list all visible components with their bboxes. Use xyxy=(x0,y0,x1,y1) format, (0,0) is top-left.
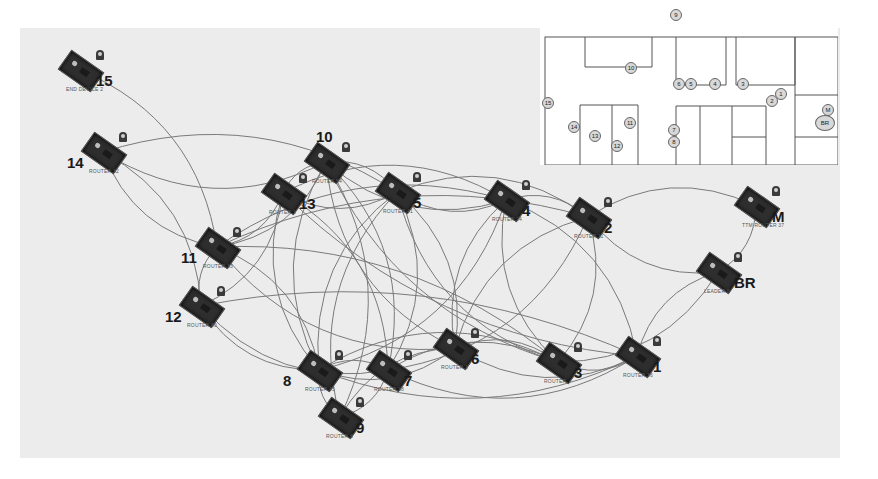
floor-plan-marker: 4 xyxy=(709,78,721,90)
floor-plan-marker: 7 xyxy=(668,124,680,136)
floor-plan-inset: 91065431215MBR1114137128 xyxy=(540,5,838,165)
link-BR-1 xyxy=(637,272,718,356)
floor-plan-marker: 13 xyxy=(589,130,601,142)
node-number-label: 15 xyxy=(96,72,113,89)
link-2-M xyxy=(588,188,756,217)
node-number-label: 1 xyxy=(653,358,661,375)
link-14-10 xyxy=(103,152,326,188)
lock-icon xyxy=(299,173,307,183)
lock-icon xyxy=(604,197,612,207)
floor-plan-marker: 6 xyxy=(673,78,685,90)
node-sublabel: ROUTER 6 xyxy=(326,433,353,439)
node-number-label: 13 xyxy=(299,195,316,212)
floor-plan-marker: 12 xyxy=(611,140,623,152)
lock-icon xyxy=(119,132,127,142)
lock-icon xyxy=(772,186,780,196)
node-number-label: 8 xyxy=(283,372,291,389)
lock-icon xyxy=(233,227,241,237)
node-sublabel: ROUTER 60 xyxy=(187,322,217,328)
node-number-label: 9 xyxy=(356,419,364,436)
node-number-label: BR xyxy=(734,274,756,291)
lock-icon xyxy=(217,286,225,296)
lock-icon xyxy=(734,252,742,262)
node-sublabel: ROUTER xyxy=(544,378,566,384)
link-4-8 xyxy=(319,200,506,370)
node-sublabel: ROUTER 54 xyxy=(312,178,342,184)
node-sublabel: ROUTER 33 xyxy=(203,263,233,269)
node-sublabel: ROUTER 11 xyxy=(574,233,604,239)
node-number-label: 12 xyxy=(165,308,182,325)
node-number-label: 11 xyxy=(181,249,197,266)
floor-plan-marker: 2 xyxy=(766,95,778,107)
lock-icon xyxy=(335,350,343,360)
lock-icon xyxy=(404,350,412,360)
node-number-label: 14 xyxy=(67,154,84,171)
node-sublabel: ROUTER 45 xyxy=(305,386,335,392)
node-number-label: M xyxy=(772,208,785,225)
link-14-12 xyxy=(103,152,201,306)
node-number-label: 6 xyxy=(471,350,479,367)
node-sublabel: ROUTER 32 xyxy=(89,168,119,174)
node-sublabel: LEADER 8 xyxy=(704,288,730,294)
node-sublabel: ROUTER 41 xyxy=(383,208,413,214)
floor-plan-marker: 11 xyxy=(624,117,636,129)
node-number-label: 7 xyxy=(404,372,412,389)
node-number-label: 2 xyxy=(604,219,612,236)
node-number-label: 4 xyxy=(522,202,530,219)
node-number-label: 3 xyxy=(574,364,582,381)
node-sublabel: ROUTER 24 xyxy=(492,216,522,222)
floor-plan-marker: 14 xyxy=(568,121,580,133)
floor-plan-marker: 8 xyxy=(668,136,680,148)
link-5-6 xyxy=(397,192,457,348)
lock-icon xyxy=(653,336,661,346)
lock-icon xyxy=(471,328,479,338)
lock-icon xyxy=(356,397,364,407)
lock-icon xyxy=(96,50,104,60)
node-sublabel: ROUTER 1 xyxy=(441,364,468,370)
node-sublabel: ROUTER 1 xyxy=(269,209,296,215)
floor-plan-marker: 5 xyxy=(685,78,697,90)
lock-icon xyxy=(522,180,530,190)
floor-plan-marker: 10 xyxy=(625,62,637,74)
link-14-11 xyxy=(103,152,217,247)
lock-icon xyxy=(413,172,421,182)
floor-plan-marker: 9 xyxy=(670,9,682,21)
lock-icon xyxy=(574,342,582,352)
node-number-label: 10 xyxy=(316,128,333,145)
node-number-label: 5 xyxy=(413,194,421,211)
node-sublabel: ROUTER 38 xyxy=(374,386,404,392)
lock-icon xyxy=(342,142,350,152)
floor-plan-marker: BR xyxy=(815,115,835,131)
node-sublabel: ROUTER 36 xyxy=(623,372,653,378)
link-4-1 xyxy=(506,200,637,356)
floor-plan-marker: 15 xyxy=(542,97,554,109)
floor-plan-marker: 3 xyxy=(737,78,749,90)
